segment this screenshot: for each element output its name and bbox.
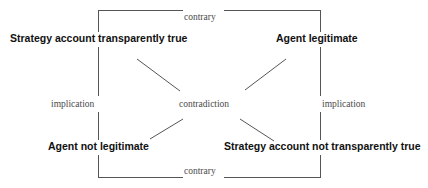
diagram-edges — [0, 0, 428, 188]
node-top-right-agent-legitimate: Agent legitimate — [276, 33, 358, 44]
square-of-opposition-diagram: Strategy account transparently true Agen… — [0, 0, 428, 188]
diagonal-tr-bl-upper-half — [245, 59, 286, 90]
diagonal-tr-bl-lower-half — [150, 119, 183, 139]
relation-label-top-contrary: contrary — [184, 13, 216, 23]
relation-label-right-implication: implication — [322, 100, 365, 110]
node-bottom-left-agent-not-legitimate: Agent not legitimate — [48, 141, 149, 152]
relation-label-bottom-contrary: contrary — [184, 167, 216, 177]
diagonal-tl-br-upper-half — [137, 59, 180, 91]
diagonal-tl-br-lower-half — [240, 119, 274, 141]
relation-label-left-implication: implication — [51, 100, 94, 110]
node-top-left-strategy-account-transparently-true: Strategy account transparently true — [10, 33, 187, 44]
relation-label-center-contradiction: contradiction — [179, 100, 229, 110]
node-bottom-right-strategy-account-not-transparently-true: Strategy account not transparently true — [224, 141, 421, 152]
